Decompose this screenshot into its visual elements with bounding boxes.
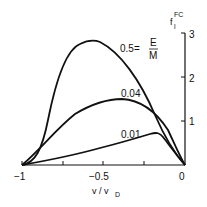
curve-label-0.5: 0.5= xyxy=(120,43,140,54)
fraction-numerator: E xyxy=(150,37,157,48)
curve-label-0.01: 0.01 xyxy=(121,129,141,140)
x-axis-label-sub: D xyxy=(115,191,120,198)
curve-label-0.04: 0.04 xyxy=(121,88,141,99)
x-tick-label-neg05: −0.5 xyxy=(89,171,109,182)
y-tick-label-3: 3 xyxy=(189,29,195,40)
chart-canvas: 0.5= E M 0.04 0.01 −1 −0.5 0 1 2 3 v / v… xyxy=(0,0,207,207)
y-tick-label-2: 2 xyxy=(189,73,195,84)
curve-0.01 xyxy=(22,133,185,165)
x-axis-label: v / v xyxy=(92,186,109,196)
curve-0.04 xyxy=(22,99,185,165)
x-tick-label-0: 0 xyxy=(179,171,185,182)
y-axis-label: f xyxy=(170,17,173,27)
chart-figure: 0.5= E M 0.04 0.01 −1 −0.5 0 1 2 3 v / v… xyxy=(0,0,207,207)
fraction-denominator: M xyxy=(149,50,157,61)
y-axis-label-sup: FC xyxy=(174,11,183,18)
x-tick-label-neg1: −1 xyxy=(14,171,26,182)
y-tick-label-1: 1 xyxy=(189,116,195,127)
y-axis-label-sub: l xyxy=(174,23,176,30)
